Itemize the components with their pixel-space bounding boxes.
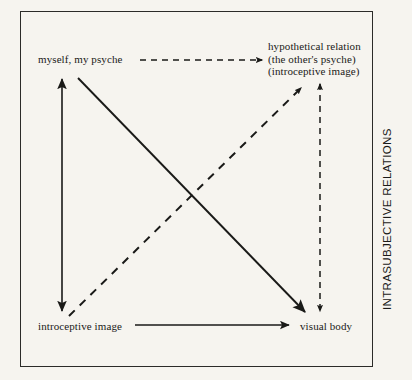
node-introceptive-image: introceptive image bbox=[38, 320, 122, 333]
node-label-line: (introceptive image) bbox=[268, 65, 361, 78]
node-visual-body: visual body bbox=[300, 320, 352, 333]
side-caption-intrasubjective-relations: INTRASUBJECTIVE RELATIONS bbox=[381, 288, 393, 310]
node-label-line: hypothetical relation bbox=[268, 40, 361, 53]
node-label-line: (the other's psyche) bbox=[268, 53, 361, 66]
node-label-line: visual body bbox=[300, 320, 352, 333]
diagram-canvas: myself, my psyche hypothetical relation … bbox=[0, 0, 412, 380]
node-hypothetical-relation: hypothetical relation (the other's psych… bbox=[268, 40, 361, 78]
node-label-line: myself, my psyche bbox=[38, 53, 123, 66]
node-myself-my-psyche: myself, my psyche bbox=[38, 53, 123, 66]
node-label-line: introceptive image bbox=[38, 320, 122, 333]
